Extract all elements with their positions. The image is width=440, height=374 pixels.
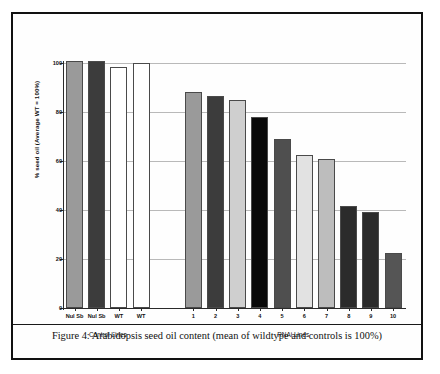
x-tick-mark bbox=[260, 308, 261, 311]
y-tick-label: 20 bbox=[36, 256, 62, 262]
bar-5 bbox=[274, 139, 291, 308]
gridline bbox=[63, 63, 406, 64]
x-tick-mark bbox=[304, 308, 305, 311]
y-axis-line bbox=[63, 61, 64, 310]
x-tick-mark bbox=[238, 308, 239, 311]
x-axis-label: 10 bbox=[373, 313, 413, 319]
bar-2 bbox=[207, 96, 224, 308]
bar-9 bbox=[362, 212, 379, 308]
bar-nul-sb bbox=[66, 61, 83, 308]
x-tick-mark bbox=[97, 308, 98, 311]
x-tick-mark bbox=[75, 308, 76, 311]
y-tick-label: 80 bbox=[36, 109, 62, 115]
bar-wt bbox=[110, 67, 127, 308]
x-tick-mark bbox=[193, 308, 194, 311]
bar-7 bbox=[318, 159, 335, 308]
bar-10 bbox=[385, 253, 402, 308]
bar-3 bbox=[229, 100, 246, 308]
y-tick-label: 60 bbox=[36, 158, 62, 164]
x-axis-label: WT bbox=[121, 313, 161, 319]
x-tick-mark bbox=[393, 308, 394, 311]
x-tick-mark bbox=[282, 308, 283, 311]
x-tick-mark bbox=[119, 308, 120, 311]
bar-1 bbox=[185, 92, 202, 308]
bar-4 bbox=[251, 117, 268, 308]
bar-6 bbox=[296, 155, 313, 308]
chart-plot-area: % seed oil (Average WT = 100%) 020406080… bbox=[13, 14, 421, 314]
bar-wt bbox=[133, 63, 150, 308]
x-tick-mark bbox=[141, 308, 142, 311]
y-tick-label: 100 bbox=[36, 60, 62, 66]
bar-8 bbox=[340, 206, 357, 308]
x-tick-mark bbox=[327, 308, 328, 311]
x-tick-mark bbox=[216, 308, 217, 311]
y-tick-label: 40 bbox=[36, 207, 62, 213]
chart-canvas: 020406080100 Nul SbNul SbWTWT12345678910… bbox=[63, 63, 406, 308]
figure-frame: % seed oil (Average WT = 100%) 020406080… bbox=[11, 12, 423, 360]
figure-caption: Figure 4: Arabidopsis seed oil content (… bbox=[13, 330, 421, 341]
y-tick-label: 0 bbox=[36, 305, 62, 311]
y-axis-title: % seed oil (Average WT = 100%) bbox=[33, 60, 40, 200]
x-axis-line bbox=[63, 308, 406, 309]
caption-divider bbox=[13, 324, 421, 325]
x-tick-mark bbox=[371, 308, 372, 311]
x-tick-mark bbox=[349, 308, 350, 311]
bar-nul-sb bbox=[88, 61, 105, 308]
